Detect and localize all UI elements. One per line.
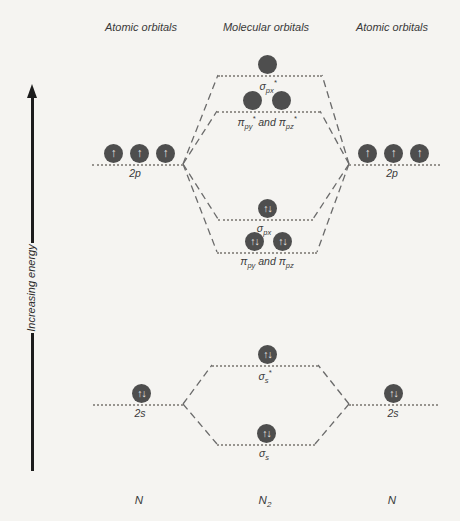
dashed-connector xyxy=(318,365,349,404)
label-2p-left: 2p xyxy=(129,167,141,179)
level-line-sigma-s xyxy=(217,444,315,446)
mo-diagram: Atomic orbitals Molecular orbitals Atomi… xyxy=(0,0,460,521)
sub: py xyxy=(244,122,252,131)
sup: * xyxy=(269,368,272,377)
dashed-connector xyxy=(313,164,349,219)
dashed-connector xyxy=(183,404,217,444)
level-line-sigma-px-star xyxy=(218,75,322,77)
orbital-circle-empty xyxy=(243,91,262,110)
electron-pair: ↑↓ xyxy=(132,384,151,403)
level-line-2p-left xyxy=(92,164,183,166)
label-2p-right: 2p xyxy=(386,167,398,179)
level-line-pi-p xyxy=(217,252,317,254)
sup: * xyxy=(274,78,277,87)
electron-up: ↑ xyxy=(130,144,149,163)
dashed-connector xyxy=(183,365,212,404)
electron-up: ↑ xyxy=(104,144,123,163)
atom-label-n2: N2 xyxy=(259,494,272,509)
label-sigma-s: σs xyxy=(259,447,269,462)
level-line-2s-right xyxy=(349,404,438,406)
label-2s-left: 2s xyxy=(134,407,145,419)
electron-pair: ↑↓ xyxy=(384,384,403,403)
electron-pair: ↑↓ xyxy=(273,232,292,251)
dashed-connector xyxy=(322,75,349,164)
orbital-circle-empty xyxy=(258,55,277,74)
dashed-connector xyxy=(183,111,217,164)
sub: py xyxy=(247,261,255,270)
electron-pair: ↑↓ xyxy=(258,199,277,218)
connector-lines xyxy=(0,0,460,521)
atom-label-n-right: N xyxy=(388,494,396,506)
level-line-2s-left xyxy=(93,404,183,406)
label-2s-right: 2s xyxy=(387,407,398,419)
level-line-pi-p-star xyxy=(217,111,320,113)
level-line-2p-right xyxy=(349,164,440,166)
electron-up: ↑ xyxy=(358,144,377,163)
sub: s xyxy=(265,453,269,462)
sub: 2 xyxy=(267,500,271,509)
level-line-sigma-px xyxy=(218,219,313,221)
label-sigma-s-star: σs* xyxy=(258,368,271,385)
electron-up: ↑ xyxy=(384,144,403,163)
label-pi-p-star: πpy* and πpz* xyxy=(237,114,296,131)
level-line-sigma-s-star xyxy=(212,365,318,367)
conj: and xyxy=(255,255,278,267)
sub: px xyxy=(263,228,271,237)
orbital-circle-empty xyxy=(272,91,291,110)
electron-pair: ↑↓ xyxy=(245,232,264,251)
dashed-connector xyxy=(320,111,349,164)
dashed-connector xyxy=(317,164,349,252)
electron-pair: ↑↓ xyxy=(258,345,277,364)
electron-up: ↑ xyxy=(410,144,429,163)
conj: and xyxy=(255,116,278,128)
sub: pz xyxy=(286,261,294,270)
atom-label-n-left: N xyxy=(135,494,143,506)
label-pi-p: πpy and πpz xyxy=(240,255,293,270)
dashed-connector xyxy=(315,404,349,444)
sym: π xyxy=(237,116,244,128)
dashed-connector xyxy=(183,75,218,164)
sym: π xyxy=(240,255,247,267)
electron-pair: ↑↓ xyxy=(257,424,276,443)
dashed-connector xyxy=(183,164,217,252)
label-sigma-px-star: σpx* xyxy=(259,78,276,95)
sup: * xyxy=(294,114,297,123)
electron-up: ↑ xyxy=(156,144,175,163)
